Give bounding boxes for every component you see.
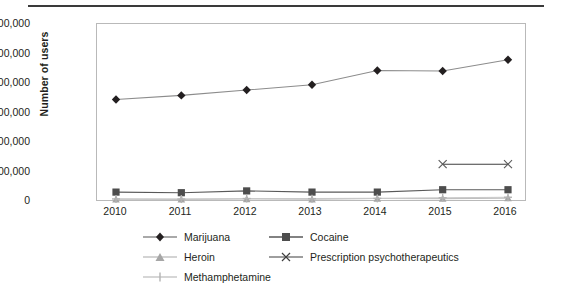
y-tick-label-1: 25,000,000: [0, 47, 30, 59]
legend-label-marijuana: Marijuana: [184, 231, 230, 243]
y-tick-label-4: 10,000,000: [0, 135, 30, 147]
x-tick-label-2013: 2013: [280, 205, 340, 217]
triangle-marker-icon: [143, 251, 177, 263]
y-tick-label-0: 30,000,000: [0, 17, 30, 29]
cross-marker-icon: [269, 251, 303, 263]
y-tick-label-5: 5,000,000: [0, 165, 30, 177]
x-tick-label-2015: 2015: [410, 205, 470, 217]
y-axis-title: Number of users: [38, 14, 50, 134]
x-tick-label-2016: 2016: [475, 205, 535, 217]
series-prescription-psychotherapeutics: [439, 160, 512, 168]
y-tick-label-6: 0: [0, 194, 30, 206]
legend-label-prescription-psychotherapeutics: Prescription psychotherapeutics: [310, 251, 459, 263]
square-marker-icon: [269, 231, 303, 243]
plus-marker-icon: [143, 271, 177, 283]
legend-label-cocaine: Cocaine: [310, 231, 349, 243]
y-tick-label-2: 20,000,000: [0, 76, 30, 88]
series-layer: [96, 23, 526, 201]
legend-item-prescription-psychotherapeutics: Prescription psychotherapeutics: [269, 251, 459, 263]
x-tick-label-2011: 2011: [150, 205, 210, 217]
legend-item-heroin: Heroin: [143, 251, 215, 263]
diamond-marker-icon: [143, 231, 177, 243]
legend-item-methamphetamine: Methamphetamine: [143, 271, 271, 283]
series-methamphetamine: [112, 193, 512, 203]
header-rule: [28, 5, 544, 7]
x-tick-label-2014: 2014: [345, 205, 405, 217]
x-tick-label-2012: 2012: [215, 205, 275, 217]
legend-label-heroin: Heroin: [184, 251, 215, 263]
series-marijuana: [112, 56, 512, 104]
chart-figure: Number of users 30,000,000 25,000,000 20…: [0, 0, 562, 297]
x-tick-label-2010: 2010: [85, 205, 145, 217]
y-tick-label-3: 15,000,000: [0, 106, 30, 118]
legend-item-cocaine: Cocaine: [269, 231, 349, 243]
legend-label-methamphetamine: Methamphetamine: [184, 271, 271, 283]
legend-item-marijuana: Marijuana: [143, 231, 230, 243]
